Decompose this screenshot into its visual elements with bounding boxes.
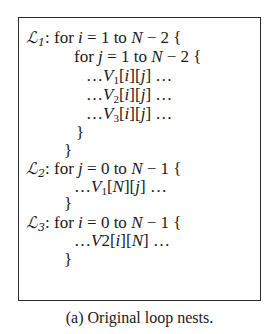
loop-l1-stmt-v1: …V1[i][j] …	[86, 67, 172, 85]
loop-l3-header: ℒ3: for i = 0 to N − 1 {	[26, 214, 181, 232]
loop-l1-header: ℒ1: for i = 1 to N − 2 {	[26, 29, 181, 47]
loop-l1-inner-close: }	[76, 124, 84, 142]
loop-l2-stmt-v1: …V1[N][j] …	[74, 178, 167, 196]
loop-l2-header: ℒ2: for j = 0 to N − 1 {	[26, 160, 181, 178]
loop-l1-outer-close: }	[64, 142, 72, 160]
figure-caption: (a) Original loop nests.	[0, 309, 279, 327]
loop-l1-stmt-v3: …V3[i][j] …	[86, 105, 172, 123]
loop-l3-close: }	[64, 251, 72, 269]
loop-l2-close: }	[64, 195, 72, 213]
loop-label-l2: ℒ2	[26, 159, 45, 178]
loop-label-l1: ℒ1	[26, 28, 45, 47]
loop-label-l3: ℒ3	[26, 213, 45, 232]
loop-l1-stmt-v2: …V2[i][j] …	[86, 86, 172, 104]
loop-l1-inner-header: for j = 1 to N − 2 {	[74, 48, 202, 66]
loop-l3-stmt-v2: …V2[i][N] …	[74, 232, 170, 250]
